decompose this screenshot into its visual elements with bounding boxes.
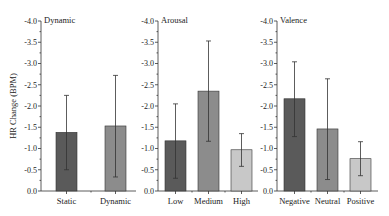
- y-tick-label: -3.5: [141, 38, 154, 47]
- panel-title-dynamic: Dynamic: [44, 15, 75, 25]
- x-tick-label: Negative: [279, 196, 310, 206]
- y-tick-label: -1.5: [260, 123, 273, 132]
- x-tick-label: Positive: [347, 196, 375, 206]
- y-tick-label: -1.0: [141, 144, 154, 153]
- x-tick-label: High: [233, 196, 251, 206]
- y-tick-label: 0.0: [144, 187, 154, 196]
- y-tick-label: -1.5: [141, 123, 154, 132]
- y-tick-label: -2.5: [141, 81, 154, 90]
- y-tick-label: -4.0: [24, 17, 37, 26]
- y-tick-label: -1.0: [260, 144, 273, 153]
- y-tick-label: -2.5: [260, 81, 273, 90]
- y-tick-label: -4.0: [141, 17, 154, 26]
- x-tick-label: Dynamic: [100, 196, 131, 206]
- y-tick-label: -0.5: [141, 166, 154, 175]
- y-tick-label: -3.0: [260, 59, 273, 68]
- y-tick-label: 0.0: [27, 187, 37, 196]
- y-tick-label: -3.5: [24, 38, 37, 47]
- y-tick-label: -4.0: [260, 17, 273, 26]
- y-tick-label: -2.5: [24, 81, 37, 90]
- hr-change-bar-charts: 0.0-0.5-1.0-1.5-2.0-2.5-3.0-3.5-4.0Dynam…: [0, 0, 389, 216]
- y-tick-label: -2.0: [260, 102, 273, 111]
- y-tick-label: -0.5: [260, 166, 273, 175]
- x-tick-label: Neutral: [315, 196, 341, 206]
- x-tick-label: Low: [168, 196, 184, 206]
- y-tick-label: -3.0: [24, 59, 37, 68]
- y-tick-label: 0.0: [263, 187, 273, 196]
- y-tick-label: -1.0: [24, 144, 37, 153]
- panel-title-arousal: Arousal: [161, 15, 189, 25]
- panel-title-valence: Valence: [280, 15, 307, 25]
- y-tick-label: -3.0: [141, 59, 154, 68]
- y-tick-label: -2.0: [141, 102, 154, 111]
- y-axis-label: HR Change (BPM): [8, 73, 18, 139]
- y-tick-label: -1.5: [24, 123, 37, 132]
- x-tick-label: Medium: [194, 196, 223, 206]
- x-tick-label: Static: [57, 196, 77, 206]
- y-tick-label: -2.0: [24, 102, 37, 111]
- y-tick-label: -0.5: [24, 166, 37, 175]
- y-tick-label: -3.5: [260, 38, 273, 47]
